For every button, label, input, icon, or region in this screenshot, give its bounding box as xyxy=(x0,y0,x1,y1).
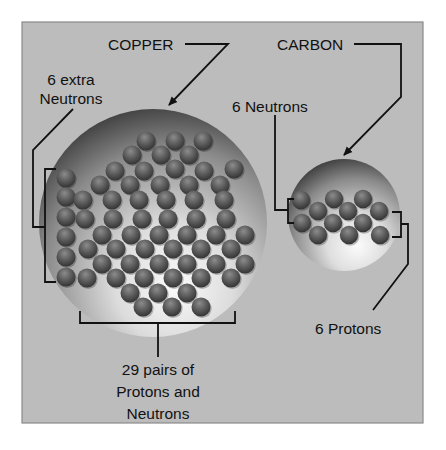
nucleon-ball xyxy=(324,214,342,232)
nucleon-ball xyxy=(194,132,213,151)
nucleon-ball xyxy=(123,146,142,165)
pairs-label-line3: Neutrons xyxy=(127,405,190,422)
nucleon-ball xyxy=(157,191,176,210)
nucleon-ball xyxy=(150,255,169,274)
nucleon-ball xyxy=(339,202,357,220)
carbon-protons-label: 6 Protons xyxy=(315,320,382,337)
copper-label: COPPER xyxy=(108,36,173,53)
carbon-nucleus xyxy=(288,159,400,271)
nucleon-ball xyxy=(136,240,155,259)
atomic-nuclei-diagram: COPPER CARBON 6 extra Neutrons 6 Neutron… xyxy=(0,0,446,450)
nucleon-ball xyxy=(135,162,154,181)
nucleon-ball xyxy=(185,191,204,210)
nucleon-ball xyxy=(57,268,76,287)
nucleon-ball xyxy=(166,160,185,179)
nucleon-ball xyxy=(195,162,214,181)
nucleon-ball xyxy=(137,132,156,151)
nucleon-ball xyxy=(222,240,241,259)
nucleon-ball xyxy=(78,269,97,288)
nucleon-ball xyxy=(57,228,76,247)
nucleon-ball xyxy=(122,226,141,245)
nucleon-ball xyxy=(325,190,343,208)
nucleon-ball xyxy=(107,240,126,259)
carbon-label: CARBON xyxy=(277,36,343,53)
nucleon-ball xyxy=(121,284,140,303)
nucleon-ball xyxy=(293,214,311,232)
nucleon-ball xyxy=(149,284,168,303)
nucleon-ball xyxy=(103,191,122,210)
nucleon-ball xyxy=(178,226,197,245)
nucleon-ball xyxy=(150,226,169,245)
nucleon-ball xyxy=(217,210,236,229)
nucleon-ball xyxy=(236,226,255,245)
nucleon-ball xyxy=(135,269,154,288)
nucleon-ball xyxy=(192,298,211,317)
nucleon-ball xyxy=(178,284,197,303)
nucleon-ball xyxy=(180,146,199,165)
nucleon-ball xyxy=(370,202,388,220)
nucleon-ball xyxy=(340,226,358,244)
nucleon-ball xyxy=(292,191,310,209)
nucleon-ball xyxy=(178,255,197,274)
nucleon-ball xyxy=(133,210,152,229)
nucleon-ball xyxy=(166,132,185,151)
nucleon-ball xyxy=(104,210,123,229)
nucleon-ball xyxy=(121,255,140,274)
nucleon-ball xyxy=(107,269,126,288)
nucleon-ball xyxy=(106,162,125,181)
nucleon-ball xyxy=(76,210,95,229)
nucleon-ball xyxy=(207,255,226,274)
nucleon-ball xyxy=(236,255,255,274)
nucleon-ball xyxy=(192,240,211,259)
nucleon-ball xyxy=(134,298,153,317)
nucleon-ball xyxy=(163,298,182,317)
nucleon-ball xyxy=(222,269,241,288)
nucleon-ball xyxy=(152,146,171,165)
nucleon-ball xyxy=(187,210,206,229)
nucleon-ball xyxy=(164,269,183,288)
nucleon-ball xyxy=(159,210,178,229)
nucleon-ball xyxy=(309,202,327,220)
pairs-label-line2: Protons and xyxy=(116,383,200,400)
nucleon-ball xyxy=(79,240,98,259)
nucleon-ball xyxy=(371,226,389,244)
nucleon-ball xyxy=(192,269,211,288)
nucleon-ball xyxy=(57,248,76,267)
carbon-neutrons-label: 6 Neutrons xyxy=(232,98,308,115)
nucleon-ball xyxy=(93,255,112,274)
nucleon-ball xyxy=(164,240,183,259)
nucleon-ball xyxy=(309,226,327,244)
nucleon-ball xyxy=(130,191,149,210)
nucleon-ball xyxy=(74,191,93,210)
nucleon-ball xyxy=(354,190,372,208)
nucleon-ball xyxy=(91,176,110,195)
pairs-label-line1: 29 pairs of xyxy=(122,361,195,378)
nucleon-ball xyxy=(57,208,76,227)
nucleon-ball xyxy=(57,169,76,188)
nucleon-ball xyxy=(225,160,244,179)
nucleon-ball xyxy=(93,226,112,245)
nucleon-ball xyxy=(207,226,226,245)
copper-nucleus xyxy=(39,109,267,337)
extra-neutrons-label-line2: Neutrons xyxy=(40,90,103,107)
extra-neutrons-label-line1: 6 extra xyxy=(47,71,95,88)
nucleon-ball xyxy=(215,191,234,210)
nucleon-ball xyxy=(57,188,76,207)
nucleon-ball xyxy=(354,214,372,232)
